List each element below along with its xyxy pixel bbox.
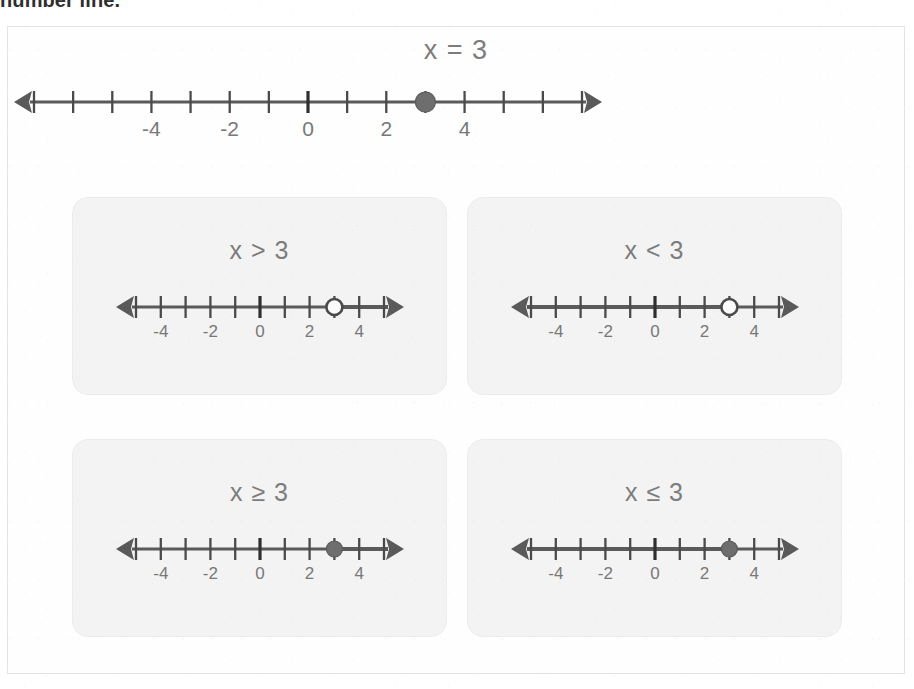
card-title: x ≤ 3 — [625, 480, 684, 505]
svg-text:-2: -2 — [202, 564, 217, 583]
svg-text:2: 2 — [699, 564, 708, 583]
svg-text:-2: -2 — [597, 564, 612, 583]
main-equation-label: x = 3 — [8, 37, 904, 64]
svg-text:0: 0 — [302, 117, 314, 140]
svg-text:2: 2 — [304, 322, 313, 341]
main-number-line: -4-2024 — [8, 80, 904, 142]
card-title: x < 3 — [625, 238, 685, 263]
card-less-or-equal[interactable]: x ≤ 3 -4-2024 — [467, 439, 842, 637]
svg-text:-2: -2 — [597, 322, 612, 341]
main-example-block: x = 3 -4-2024 — [8, 37, 904, 142]
card-number-line: -4-2024 — [110, 527, 410, 589]
svg-text:0: 0 — [650, 322, 659, 341]
card-greater-than[interactable]: x > 3 -4-2024 — [72, 197, 447, 395]
svg-text:4: 4 — [749, 322, 758, 341]
card-number-line: -4-2024 — [505, 527, 805, 589]
truncated-heading: number line. — [0, 0, 120, 12]
svg-text:4: 4 — [459, 117, 471, 140]
card-row-bottom: x ≥ 3 -4-2024 x ≤ 3 -4-2024 — [72, 439, 842, 637]
worksheet-frame: x = 3 -4-2024 x > 3 -4-2024 x < 3 -4-202… — [7, 26, 905, 674]
svg-text:2: 2 — [304, 564, 313, 583]
card-less-than[interactable]: x < 3 -4-2024 — [467, 197, 842, 395]
svg-text:-4: -4 — [153, 322, 168, 341]
svg-text:2: 2 — [699, 322, 708, 341]
svg-text:-4: -4 — [548, 322, 563, 341]
svg-text:-4: -4 — [142, 117, 161, 140]
svg-text:-4: -4 — [548, 564, 563, 583]
svg-text:-2: -2 — [202, 322, 217, 341]
card-greater-or-equal[interactable]: x ≥ 3 -4-2024 — [72, 439, 447, 637]
card-row-top: x > 3 -4-2024 x < 3 -4-2024 — [72, 197, 842, 395]
svg-text:2: 2 — [380, 117, 392, 140]
svg-text:0: 0 — [650, 564, 659, 583]
svg-text:-2: -2 — [220, 117, 239, 140]
svg-text:4: 4 — [749, 564, 758, 583]
svg-text:4: 4 — [354, 322, 363, 341]
card-number-line: -4-2024 — [505, 285, 805, 347]
svg-text:-4: -4 — [153, 564, 168, 583]
svg-text:0: 0 — [255, 564, 264, 583]
inequality-card-grid: x > 3 -4-2024 x < 3 -4-2024 x ≥ 3 -4-202… — [72, 197, 842, 637]
card-title: x ≥ 3 — [230, 480, 289, 505]
card-title: x > 3 — [230, 238, 290, 263]
card-number-line: -4-2024 — [110, 285, 410, 347]
svg-text:0: 0 — [255, 322, 264, 341]
svg-text:4: 4 — [354, 564, 363, 583]
